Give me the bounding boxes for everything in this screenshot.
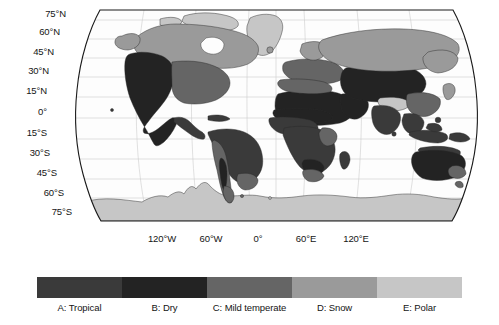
lat-label-45n: 45°N (0, 47, 54, 57)
island-iceland (267, 47, 273, 53)
lon-label-0: 0° (240, 234, 276, 244)
island-falklands (240, 194, 243, 197)
lat-label-45s: 45°S (1, 168, 57, 178)
island-south-georgia (269, 197, 272, 200)
climate-map-figure: 75°N 60°N 45°N 30°N 15°N 0° 15°S 30°S 45… (0, 0, 499, 325)
legend-color-bar (37, 277, 462, 298)
lon-label-120e: 120°E (331, 234, 381, 244)
legend-swatch-b-dry (122, 277, 207, 298)
lat-label-0: 0° (0, 107, 47, 117)
lat-label-15n: 15°N (0, 86, 47, 96)
lon-label-120w: 120°W (137, 234, 187, 244)
lat-label-75n: 75°N (10, 9, 66, 19)
island-philippines (435, 117, 441, 123)
lat-label-60s: 60°S (8, 188, 64, 198)
world-map (64, 6, 489, 228)
island-sri-lanka (392, 132, 396, 136)
legend-swatch-d-snow (292, 277, 377, 298)
legend-swatch-c-mild-temperate (207, 277, 292, 298)
lat-label-30n: 30°N (0, 66, 49, 76)
lat-label-60n: 60°N (4, 27, 60, 37)
lon-label-60e: 60°E (283, 234, 329, 244)
legend-label-b: B: Dry (122, 301, 207, 315)
island-hawaii (111, 109, 114, 112)
lat-label-15s: 15°S (0, 128, 47, 138)
climate-legend: A: Tropical B: Dry C: Mild temperate D: … (37, 277, 462, 322)
legend-label-c: C: Mild temperate (207, 301, 292, 315)
legend-label-row: A: Tropical B: Dry C: Mild temperate D: … (37, 301, 462, 315)
lat-label-30s: 30°S (0, 148, 50, 158)
legend-swatch-a-tropical (37, 277, 122, 298)
legend-label-a: A: Tropical (37, 301, 122, 315)
legend-label-d: D: Snow (292, 301, 377, 315)
region-new-zealand (474, 171, 484, 184)
lon-label-60w: 60°W (188, 234, 234, 244)
world-map-svg (64, 6, 489, 228)
legend-swatch-e-polar (377, 277, 462, 298)
legend-label-e: E: Polar (377, 301, 462, 315)
